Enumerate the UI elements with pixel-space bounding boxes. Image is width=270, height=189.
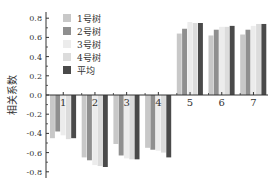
bar-2-group-6 <box>214 30 219 95</box>
y-axis-label: 相关系数 <box>6 75 18 115</box>
legend-swatch <box>63 27 71 35</box>
bar-4-group-5 <box>193 23 198 95</box>
legend-swatch <box>63 40 71 48</box>
legend-swatch <box>63 53 71 61</box>
bar-4-group-7 <box>256 24 261 95</box>
legend-label: 平均 <box>77 65 95 76</box>
legend-swatch <box>63 66 71 74</box>
bar-5-group-6 <box>230 26 235 95</box>
bar-5-group-7 <box>261 24 266 95</box>
x-tick-label: 1 <box>60 97 66 108</box>
bar-1-group-6 <box>209 35 214 95</box>
correlation-bar-chart: 1234567 0.80.60.40.20.0-0.2-0.4-0.6-0.8 … <box>0 0 270 189</box>
y-tick-label: -0.4 <box>27 129 42 138</box>
x-tick-label: 4 <box>155 97 161 108</box>
bar-1-group-5 <box>177 34 182 95</box>
bar-4-group-3 <box>129 95 134 159</box>
y-tick-label: 0.8 <box>29 14 42 23</box>
bar-1-group-2 <box>82 95 87 157</box>
legend-label: 1号树 <box>77 13 101 24</box>
bar-2-group-7 <box>246 30 251 95</box>
bar-4-group-2 <box>98 95 103 166</box>
bar-5-group-4 <box>166 95 171 157</box>
bar-1-group-1 <box>50 95 55 138</box>
y-tick-label: 0.6 <box>29 33 42 42</box>
bar-5-group-2 <box>103 95 108 167</box>
bar-1-group-4 <box>145 95 150 148</box>
y-tick-label: 0.2 <box>29 72 42 81</box>
bar-5-group-5 <box>198 23 203 95</box>
y-tick-label: -0.6 <box>27 149 42 158</box>
bar-3-group-7 <box>251 26 256 95</box>
legend-label: 3号树 <box>77 39 101 50</box>
y-tick-label: 0.4 <box>29 53 42 62</box>
x-tick-label: 3 <box>123 97 129 108</box>
bar-5-group-3 <box>135 95 140 159</box>
bar-3-group-6 <box>219 27 224 95</box>
x-tick-label: 6 <box>219 97 225 108</box>
bar-1-group-3 <box>113 95 118 144</box>
y-tick-label: -0.8 <box>27 168 42 177</box>
bar-5-group-1 <box>71 95 76 138</box>
bar-2-group-5 <box>182 29 187 95</box>
legend: 1号树2号树3号树4号树平均 <box>63 13 101 76</box>
x-tick-label: 7 <box>250 97 256 108</box>
bar-3-group-5 <box>187 22 192 95</box>
chart-canvas: 1234567 0.80.60.40.20.0-0.2-0.4-0.6-0.8 … <box>0 0 270 189</box>
bar-4-group-1 <box>66 95 71 139</box>
legend-label: 4号树 <box>77 52 101 63</box>
legend-label: 2号树 <box>77 26 101 37</box>
x-tick-label: 5 <box>187 97 193 108</box>
bar-4-group-6 <box>224 27 229 95</box>
x-tick-label: 2 <box>92 97 98 108</box>
y-tick-label: -0.2 <box>27 110 42 119</box>
y-tick-label: 0.0 <box>29 91 42 100</box>
bar-4-group-4 <box>161 95 166 153</box>
legend-swatch <box>63 14 71 22</box>
bar-1-group-7 <box>240 35 245 95</box>
